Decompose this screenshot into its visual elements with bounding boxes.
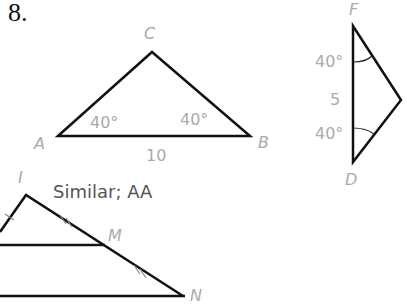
angle-f-value: 40° bbox=[315, 52, 343, 71]
vertex-a-label: A bbox=[34, 134, 45, 153]
vertex-b-label: B bbox=[258, 133, 269, 152]
triangle-abc bbox=[58, 52, 250, 136]
angle-a-value: 40° bbox=[90, 113, 118, 132]
vertex-n-label: N bbox=[190, 286, 202, 305]
vertex-i-label: I bbox=[18, 168, 23, 187]
side-fd-value: 5 bbox=[330, 90, 340, 109]
angle-arc-f bbox=[353, 56, 372, 62]
vertex-f-label: F bbox=[349, 0, 358, 19]
angle-b-value: 40° bbox=[180, 110, 208, 129]
triangle-def bbox=[353, 26, 401, 162]
vertex-c-label: C bbox=[144, 24, 155, 43]
vertex-m-label: M bbox=[108, 226, 122, 245]
angle-arc-d bbox=[353, 128, 374, 134]
answer-text: Similar; AA bbox=[53, 181, 152, 202]
vertex-d-label: D bbox=[345, 170, 357, 189]
side-ab-value: 10 bbox=[146, 146, 166, 165]
angle-d-value: 40° bbox=[315, 124, 343, 143]
